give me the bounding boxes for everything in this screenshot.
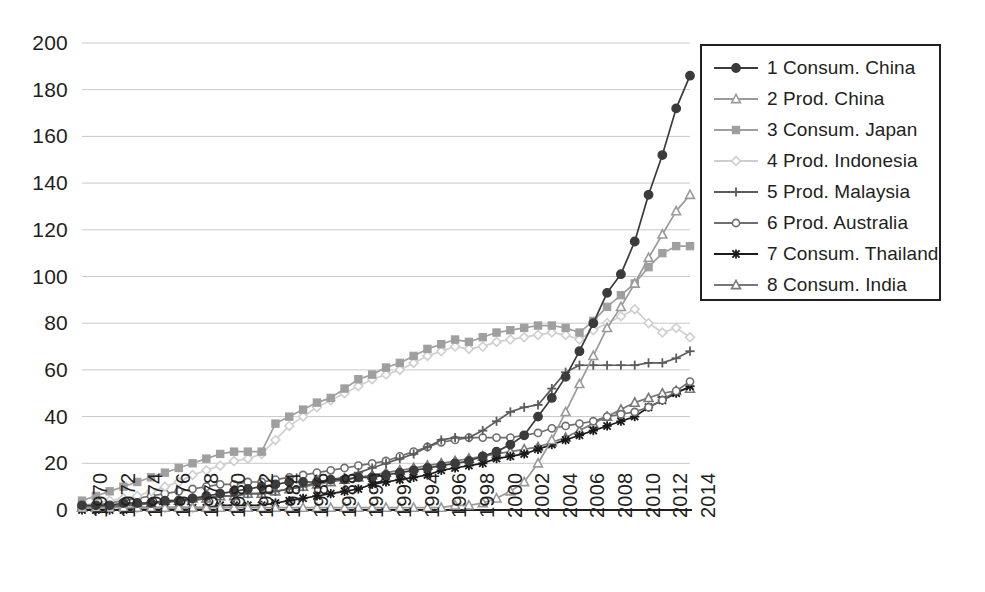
- x-tick-label-1974: 1974: [145, 473, 165, 518]
- data-point-marker: [672, 354, 681, 363]
- data-point-marker: [230, 457, 239, 466]
- data-point-marker: [561, 435, 570, 444]
- legend-item-5[interactable]: 5 Prod. Malaysia: [702, 176, 939, 207]
- marker-circle-filled: [631, 237, 639, 245]
- marker-square: [451, 336, 458, 343]
- legend-marker-circle-filled-icon: [712, 57, 760, 79]
- marker-square: [493, 329, 500, 336]
- marker-circle-filled: [644, 191, 652, 199]
- data-point-marker: [313, 399, 320, 406]
- marker-square: [175, 464, 182, 471]
- marker-square: [534, 322, 541, 329]
- marker-diamond: [520, 333, 529, 342]
- data-point-marker: [437, 461, 445, 469]
- x-tick-label-2000: 2000: [505, 473, 525, 518]
- data-point-marker: [686, 71, 694, 79]
- legend-item-6[interactable]: 6 Prod. Australia: [702, 207, 939, 238]
- marker-square: [230, 448, 237, 455]
- data-point-marker: [548, 394, 556, 402]
- y-tick-label-0: 0: [0, 499, 68, 520]
- legend-item-2[interactable]: 2 Prod. China: [702, 83, 939, 114]
- x-tick-label-1984: 1984: [283, 473, 303, 518]
- data-point-marker: [520, 431, 528, 439]
- marker-triangle: [658, 230, 667, 238]
- marker-circle-open: [341, 464, 348, 471]
- data-point-marker: [451, 336, 458, 343]
- data-point-marker: [534, 412, 542, 420]
- y-tick-label-100: 100: [0, 266, 68, 287]
- data-point-marker: [732, 94, 741, 102]
- marker-square: [465, 338, 472, 345]
- marker-circle-filled: [561, 373, 569, 381]
- marker-circle-open: [548, 425, 555, 432]
- series-line-1: [82, 76, 690, 506]
- marker-circle-open: [686, 378, 693, 385]
- marker-square: [244, 448, 251, 455]
- data-point-marker: [492, 337, 501, 346]
- marker-square: [272, 420, 279, 427]
- data-point-marker: [521, 324, 528, 331]
- data-point-marker: [659, 250, 666, 257]
- marker-triangle: [589, 351, 598, 359]
- marker-circle-open: [576, 420, 583, 427]
- data-point-marker: [575, 431, 584, 440]
- marker-triangle: [575, 379, 584, 387]
- marker-circle-filled: [617, 270, 625, 278]
- data-point-marker: [424, 345, 431, 352]
- data-point-marker: [547, 435, 556, 443]
- marker-triangle: [644, 253, 653, 261]
- marker-diamond: [617, 312, 626, 321]
- data-point-marker: [410, 352, 417, 359]
- data-point-marker: [617, 312, 626, 321]
- data-point-marker: [423, 442, 432, 451]
- data-point-marker: [732, 280, 741, 288]
- legend-item-1[interactable]: 1 Consum. China: [702, 52, 939, 83]
- marker-square: [313, 399, 320, 406]
- marker-square: [659, 250, 666, 257]
- legend-marker-triangle-open-icon: [712, 274, 760, 296]
- data-point-marker: [617, 411, 624, 418]
- marker-diamond: [230, 457, 239, 466]
- legend-item-7[interactable]: 7 Consum. Thailand: [702, 238, 939, 269]
- x-tick-label-2004: 2004: [560, 473, 580, 518]
- legend-item-3[interactable]: 3 Consum. Japan: [702, 114, 939, 145]
- marker-square: [286, 413, 293, 420]
- data-point-marker: [341, 385, 348, 392]
- data-point-marker: [520, 403, 529, 412]
- data-point-marker: [617, 292, 624, 299]
- x-tick-label-1980: 1980: [228, 473, 248, 518]
- data-point-marker: [589, 351, 598, 359]
- x-tick-label-1998: 1998: [477, 473, 497, 518]
- x-tick-label-1978: 1978: [201, 473, 221, 518]
- marker-square: [382, 364, 389, 371]
- data-point-marker: [672, 104, 680, 112]
- legend-label-3: 3 Consum. Japan: [767, 120, 917, 139]
- marker-circle-filled: [603, 289, 611, 297]
- data-point-marker: [617, 302, 626, 310]
- data-point-marker: [341, 464, 348, 471]
- marker-circle-filled: [479, 452, 487, 460]
- legend-item-4[interactable]: 4 Prod. Indonesia: [702, 145, 939, 176]
- marker-circle-filled: [506, 440, 514, 448]
- data-point-marker: [732, 219, 739, 226]
- x-tick-label-2012: 2012: [670, 473, 690, 518]
- data-point-marker: [203, 455, 210, 462]
- marker-triangle: [561, 407, 570, 415]
- y-tick-label-40: 40: [0, 406, 68, 427]
- marker-square: [732, 126, 739, 133]
- x-tick-label-1986: 1986: [311, 473, 331, 518]
- data-point-marker: [492, 447, 500, 455]
- data-point-marker: [603, 289, 611, 297]
- marker-square: [217, 450, 224, 457]
- marker-square: [424, 345, 431, 352]
- data-point-marker: [644, 358, 653, 367]
- legend-label-6: 6 Prod. Australia: [767, 213, 908, 232]
- x-tick-label-1992: 1992: [394, 473, 414, 518]
- marker-circle-filled: [492, 447, 500, 455]
- marker-square: [617, 292, 624, 299]
- data-point-marker: [464, 433, 473, 442]
- data-point-marker: [548, 322, 555, 329]
- legend-item-8[interactable]: 8 Consum. India: [702, 269, 939, 300]
- marker-triangle-open: [732, 280, 741, 288]
- data-point-marker: [673, 387, 680, 394]
